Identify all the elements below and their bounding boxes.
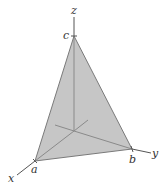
x-axis-label: x [8, 172, 15, 185]
c-intercept-label: c [63, 29, 69, 42]
z-axis-label: z [70, 4, 77, 17]
b-intercept-label: b [129, 153, 136, 166]
tetrahedron-diagram: z c x a b y [0, 0, 166, 189]
diagram-canvas: z c x a b y [0, 0, 166, 189]
y-axis-label: y [151, 147, 159, 160]
a-intercept-label: a [31, 163, 38, 176]
